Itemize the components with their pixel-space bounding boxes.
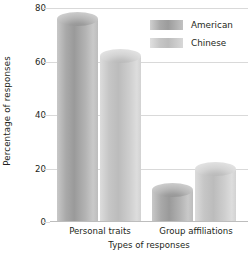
x-axis-tick-labels: Personal traits Group affiliations bbox=[50, 226, 248, 240]
bar-chart: Percentage of responses 80 60 40 20 0 bbox=[0, 0, 248, 264]
bar-american-personal-traits bbox=[57, 19, 98, 222]
gridline-80 bbox=[50, 8, 248, 9]
legend-swatch-american bbox=[150, 20, 183, 30]
bar-body bbox=[195, 169, 236, 223]
chart-legend: American Chinese bbox=[150, 17, 246, 53]
bar-body bbox=[100, 56, 141, 222]
gridline-stub-0 bbox=[42, 222, 50, 223]
bar-chinese-personal-traits bbox=[100, 56, 141, 222]
legend-entry-chinese: Chinese bbox=[150, 35, 246, 50]
bar-cylinder-top bbox=[152, 183, 193, 197]
gridline-stub-80 bbox=[42, 8, 50, 9]
legend-label-american: American bbox=[191, 20, 233, 30]
bar-cylinder-top bbox=[195, 162, 236, 176]
x-tick-label-personal-traits: Personal traits bbox=[48, 226, 152, 236]
y-axis-tick-labels: 80 60 40 20 0 bbox=[8, 8, 46, 222]
bar-chinese-group-affiliations bbox=[195, 169, 236, 223]
x-tick-label-group-affiliations: Group affiliations bbox=[144, 226, 248, 236]
gridline-stub-40 bbox=[42, 115, 50, 116]
x-axis-title: Types of responses bbox=[50, 240, 248, 250]
legend-entry-american: American bbox=[150, 17, 246, 32]
bar-cylinder-top bbox=[57, 12, 98, 26]
bar-body bbox=[57, 19, 98, 222]
gridline-stub-60 bbox=[42, 62, 50, 63]
legend-label-chinese: Chinese bbox=[191, 38, 226, 48]
bar-cylinder-top bbox=[100, 49, 141, 63]
bar-american-group-affiliations bbox=[152, 190, 193, 222]
legend-swatch-chinese bbox=[150, 38, 183, 48]
axis-baseline bbox=[50, 221, 248, 222]
gridline-stub-20 bbox=[42, 169, 50, 170]
